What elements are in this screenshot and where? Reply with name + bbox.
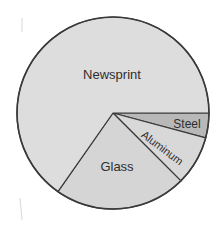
label-glass: Glass (100, 159, 134, 174)
pie-chart: Steel Aluminum Glass Newsprint (0, 0, 220, 231)
label-newsprint: Newsprint (83, 67, 141, 82)
pie-slices (17, 17, 209, 209)
label-steel: Steel (173, 117, 200, 131)
